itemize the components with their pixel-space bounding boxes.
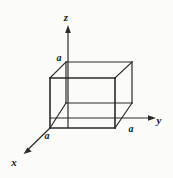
- z-axis-arrowhead: [65, 25, 71, 33]
- dimension-label-a-z: a: [57, 52, 62, 63]
- z-axis-label: z: [63, 11, 69, 23]
- y-axis-label: y: [155, 114, 162, 126]
- y-axis-arrowhead: [148, 115, 156, 121]
- cube-edge-depth-bottom-left: [50, 103, 66, 128]
- cube-axes-figure: z y x a a a: [0, 0, 173, 178]
- axes-group: [24, 25, 157, 154]
- x-axis-arrowhead: [24, 147, 32, 154]
- x-axis-label: x: [10, 156, 17, 168]
- cube-edge-depth-top-left: [50, 62, 66, 78]
- cube-edge-depth-top-right: [115, 62, 132, 78]
- dimension-label-a-y: a: [129, 123, 134, 134]
- figure-canvas: z y x a a a: [0, 0, 173, 178]
- cube-back-edges: [66, 62, 132, 103]
- dimension-label-a-x: a: [45, 130, 50, 141]
